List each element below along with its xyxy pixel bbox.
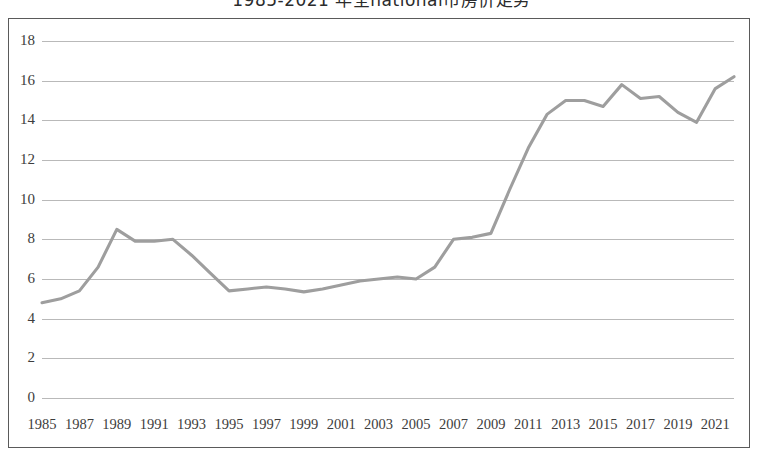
plot-area: 181614121086420 198519871989199119931995… (9, 19, 751, 449)
series-layer (9, 19, 751, 449)
chart-title: 1985-2021 年全national市房价走势 (0, 0, 763, 13)
chart-frame: 181614121086420 198519871989199119931995… (8, 18, 750, 448)
line-series-housing-price (42, 77, 734, 303)
